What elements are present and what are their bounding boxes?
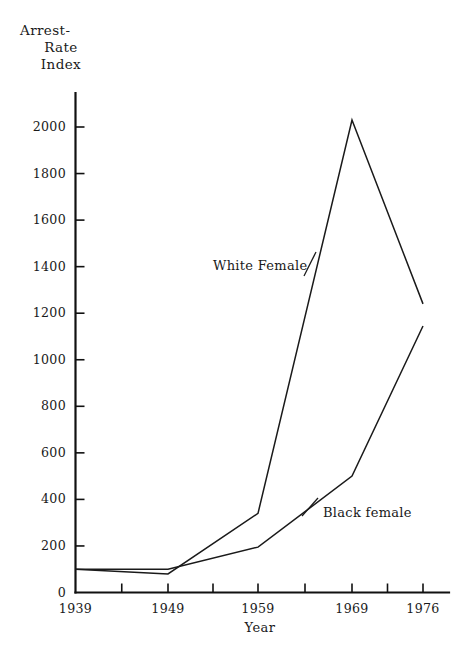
x-axis-tick-label: 1939	[46, 601, 106, 616]
y-axis-tick-label: 1800	[8, 166, 66, 181]
plot-area	[0, 0, 460, 645]
x-axis-tick-label: 1959	[228, 601, 288, 616]
series-label-black-female: Black female	[323, 505, 412, 520]
y-axis-tick-label: 0	[8, 585, 66, 600]
y-axis-tick-label: 200	[8, 538, 66, 553]
x-axis-tick-label: 1976	[393, 601, 453, 616]
y-axis-ticks	[76, 127, 85, 546]
chart-figure: Arrest- Rate Index 020040060080010001200…	[0, 0, 460, 645]
y-axis-tick-label: 1600	[8, 212, 66, 227]
y-axis-tick-label: 400	[8, 491, 66, 506]
y-axis-tick-label: 600	[8, 445, 66, 460]
series-line-black-female	[76, 326, 424, 569]
x-axis-tick-label: 1969	[322, 601, 382, 616]
series-label-white-female: White Female	[213, 258, 307, 273]
y-axis-tick-label: 1400	[8, 259, 66, 274]
y-axis-tick-label: 1000	[8, 352, 66, 367]
annotation-leader-lines	[302, 252, 318, 516]
x-axis-title: Year	[200, 620, 320, 635]
y-axis-tick-label: 800	[8, 398, 66, 413]
y-axis-tick-label: 2000	[8, 119, 66, 134]
x-axis-ticks	[122, 584, 423, 593]
x-axis-tick-label: 1949	[138, 601, 198, 616]
leader-black-female	[302, 498, 318, 516]
y-axis-tick-label: 1200	[8, 305, 66, 320]
